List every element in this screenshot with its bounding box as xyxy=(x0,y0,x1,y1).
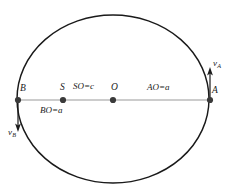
diagram-canvas xyxy=(0,0,228,195)
point-s-label: S xyxy=(60,83,65,93)
point-s-dot xyxy=(60,97,66,103)
point-b-label: B xyxy=(20,84,26,94)
point-b-dot xyxy=(15,97,21,103)
point-a-dot xyxy=(207,97,213,103)
segment-so-label: SO=c xyxy=(73,82,94,91)
point-o-label: O xyxy=(111,83,118,93)
velocity-vector-b xyxy=(15,100,21,132)
point-o-dot xyxy=(110,97,116,103)
segment-ao-label: AO=a xyxy=(147,83,170,92)
velocity-b-subscript: B xyxy=(12,131,16,138)
orbit-diagram: B S O A SO=c BO=a AO=a vA vB xyxy=(0,0,228,195)
velocity-a-subscript: A xyxy=(217,62,221,69)
velocity-a-label: vA xyxy=(213,59,221,68)
velocity-b-label: vB xyxy=(8,128,16,137)
segment-bo-label: BO=a xyxy=(40,106,63,115)
point-a-label: A xyxy=(212,86,218,96)
